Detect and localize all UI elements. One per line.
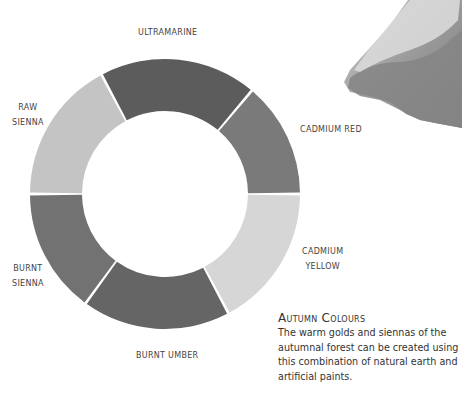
painted-rock-image: [340, 0, 462, 130]
label-cadmium-yellow-line1: CADMIUM: [302, 244, 343, 259]
label-raw-sienna-line2: SIENNA: [12, 115, 44, 130]
label-raw-sienna: RAW SIENNA: [12, 100, 44, 130]
label-burnt-sienna-line2: SIENNA: [12, 276, 44, 291]
label-ultramarine: ULTRAMARINE: [138, 25, 197, 40]
label-burnt-sienna: BURNT SIENNA: [12, 261, 44, 291]
caption-body: The warm golds and siennas of the autumn…: [278, 326, 462, 384]
label-cadmium-yellow: CADMIUM YELLOW: [302, 244, 343, 274]
label-burnt-sienna-line1: BURNT: [12, 261, 44, 276]
label-cadmium-yellow-line2: YELLOW: [302, 259, 343, 274]
label-raw-sienna-line1: RAW: [12, 100, 44, 115]
wheel-segment-raw-sienna: [30, 75, 125, 193]
wheel-segment-burnt-umber: [87, 262, 227, 329]
caption-title: Autumn Colours: [278, 310, 462, 326]
wheel-segment-cadmium-yellow: [205, 195, 300, 313]
label-burnt-umber: BURNT UMBER: [136, 348, 198, 363]
caption: Autumn Colours The warm golds and sienna…: [278, 310, 462, 384]
wheel-segment-ultramarine: [103, 59, 251, 130]
label-cadmium-red: CADMIUM RED: [300, 122, 362, 137]
